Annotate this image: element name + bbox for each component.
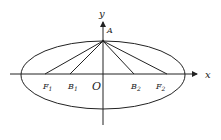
point-F2-label: F2 xyxy=(155,82,166,92)
segment-AF1 xyxy=(45,41,103,74)
point-A-label: A xyxy=(106,26,113,35)
point-A xyxy=(102,40,104,42)
segment-AF2 xyxy=(103,41,167,74)
point-B1-label: B1 xyxy=(67,82,78,92)
segment-AB2 xyxy=(103,41,134,74)
origin-label: O xyxy=(92,80,101,93)
x-axis-label: x xyxy=(205,69,211,80)
point-B2-label: B2 xyxy=(130,82,141,92)
y-axis-label: y xyxy=(98,8,105,19)
ellipse-diagram: y x A O F1 B1 B2 F2 xyxy=(0,0,221,140)
point-F1-label: F1 xyxy=(42,82,52,92)
